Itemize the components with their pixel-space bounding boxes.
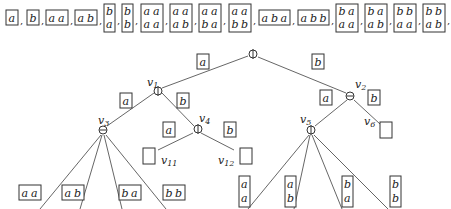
svg-text:,: , [165, 15, 168, 26]
svg-text:b: b [87, 12, 94, 25]
svg-text:a: a [211, 5, 218, 18]
seq-item-4: a b [75, 10, 97, 25]
seq-item-6: b b [122, 4, 133, 32]
svg-text:b: b [371, 92, 378, 105]
svg-text:a: a [78, 12, 85, 25]
seq-item-14: b a a b [365, 4, 387, 32]
svg-text:b: b [344, 178, 351, 191]
node-v6-label: v6 [364, 115, 375, 129]
v3-child-bb: b b [163, 185, 185, 200]
svg-text:b: b [426, 5, 433, 18]
svg-text:a: a [426, 18, 433, 31]
svg-text:b: b [180, 95, 187, 108]
svg-text:a: a [173, 18, 180, 31]
node-v2-label: v2 [355, 78, 366, 92]
node-v2-ominus-icon [346, 92, 354, 100]
svg-text:a: a [301, 12, 308, 25]
svg-text:a: a [241, 192, 248, 205]
node-root-oplus-icon [249, 49, 257, 59]
seq-item-8: a a a b [170, 4, 192, 32]
svg-text:b: b [435, 18, 442, 31]
v5-child-b-a: b a [342, 176, 353, 207]
svg-text:,: , [117, 15, 120, 26]
svg-text:,: , [360, 15, 363, 26]
svg-text:a: a [377, 5, 384, 18]
svg-text:b: b [310, 12, 317, 25]
svg-text:b: b [339, 5, 346, 18]
svg-text:a: a [144, 18, 151, 31]
svg-text:a: a [173, 5, 180, 18]
svg-text:b: b [124, 5, 131, 18]
svg-text:b: b [435, 5, 442, 18]
svg-text:,: , [389, 15, 392, 26]
svg-text:a: a [202, 5, 209, 18]
svg-text:b: b [202, 18, 209, 31]
v3-child-ab: a b [62, 185, 84, 200]
svg-text:,: , [331, 15, 334, 26]
svg-text:a: a [262, 12, 269, 25]
svg-text:a: a [211, 18, 218, 31]
v3-children: a a a b b a b b [19, 185, 185, 200]
svg-text:,: , [135, 15, 138, 26]
svg-text:a: a [348, 5, 355, 18]
v5-child-a-a: a a [239, 176, 250, 207]
svg-text:b: b [232, 18, 239, 31]
svg-text:b: b [166, 187, 173, 200]
svg-text:a: a [241, 5, 248, 18]
seq-item-9: a a b a [199, 4, 221, 32]
svg-text:b: b [227, 124, 234, 137]
svg-text:,: , [447, 15, 450, 26]
svg-text:a: a [368, 18, 375, 31]
seq-item-1: a [6, 10, 18, 25]
svg-text:a: a [22, 187, 29, 200]
node-v11-empty-box [143, 148, 155, 164]
word-sequence: a , b , a a , a b , b a , [6, 4, 450, 32]
svg-text:a: a [9, 12, 16, 25]
node-v3-label: v3 [98, 114, 109, 128]
svg-text:a: a [123, 95, 130, 108]
edge-label-v4-v11: a [163, 122, 175, 137]
svg-text:a: a [153, 5, 160, 18]
svg-text:a: a [106, 18, 113, 31]
svg-text:b: b [320, 12, 327, 25]
svg-text:a: a [131, 187, 138, 200]
node-v1-label: v1 [147, 76, 158, 90]
svg-text:b: b [124, 18, 131, 31]
svg-text:a: a [406, 18, 413, 31]
seq-item-11: a b a [259, 10, 290, 25]
svg-text:b: b [377, 18, 384, 31]
svg-text:b: b [175, 187, 182, 200]
svg-text:a: a [31, 187, 38, 200]
seq-item-10: a a b b [229, 4, 251, 32]
node-v12-empty-box [240, 148, 252, 164]
svg-text:b: b [182, 18, 189, 31]
svg-text:a: a [182, 5, 189, 18]
v3-child-aa: a a [19, 185, 41, 200]
svg-text:,: , [223, 15, 226, 26]
svg-text:,: , [99, 15, 102, 26]
svg-text:,: , [253, 15, 256, 26]
edge-label-v4-v12: b [224, 122, 236, 137]
seq-item-2: b [27, 10, 39, 25]
svg-text:b: b [241, 18, 248, 31]
svg-text:b: b [368, 5, 375, 18]
svg-text:b: b [406, 5, 413, 18]
svg-text:b: b [392, 178, 399, 191]
edge-label-root-v2: b [312, 54, 324, 69]
svg-text:b: b [106, 5, 113, 18]
svg-text:,: , [70, 15, 73, 26]
svg-text:a: a [344, 192, 351, 205]
svg-text:,: , [292, 15, 295, 26]
tree-nodes: v1 v2 v3 v4 v5 v6 [98, 49, 392, 168]
svg-text:a: a [144, 5, 151, 18]
svg-text:a: a [49, 12, 56, 25]
edge-labels: a b a b a b a b [120, 54, 380, 137]
svg-text:,: , [20, 15, 23, 26]
node-v11-label: v11 [161, 154, 177, 168]
svg-text:,: , [418, 15, 421, 26]
svg-text:b: b [30, 12, 37, 25]
svg-text:b: b [271, 12, 278, 25]
edge-label-v2-v5: a [320, 90, 332, 105]
seq-item-12: a b b [298, 10, 329, 25]
svg-text:a: a [200, 56, 207, 69]
